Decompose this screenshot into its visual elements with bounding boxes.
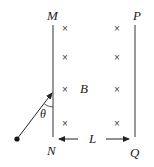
field-cross-icon: × bbox=[62, 118, 68, 129]
field-cross-icon: × bbox=[62, 84, 68, 95]
label-distance-l: L bbox=[88, 131, 96, 146]
physics-diagram: M P N Q × × × × × × × × B θ L bbox=[0, 0, 154, 167]
label-p: P bbox=[132, 8, 141, 23]
field-cross-icon: × bbox=[62, 52, 68, 63]
field-cross-icon: × bbox=[114, 118, 120, 129]
label-theta: θ bbox=[40, 107, 46, 121]
field-cross-icon: × bbox=[62, 23, 68, 34]
velocity-arrow bbox=[17, 93, 52, 139]
field-cross-icon: × bbox=[114, 23, 120, 34]
label-q: Q bbox=[130, 145, 140, 160]
label-m: M bbox=[46, 8, 59, 23]
field-cross-icon: × bbox=[114, 52, 120, 63]
label-field-b: B bbox=[80, 81, 88, 96]
label-n: N bbox=[46, 143, 57, 158]
field-cross-icon: × bbox=[114, 84, 120, 95]
